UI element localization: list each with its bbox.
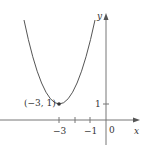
y-tick-label-1: 1 <box>95 99 101 109</box>
parabola-curve <box>24 20 95 104</box>
vertex-point <box>57 102 61 106</box>
vertex-label: (−3, 1) <box>24 98 56 108</box>
x-tick-label-neg1: −1 <box>84 126 97 136</box>
y-axis-arrow-icon <box>104 13 109 20</box>
x-axis-label: x <box>134 126 139 136</box>
x-tick-label-neg3: −3 <box>53 126 67 136</box>
origin-label: 0 <box>109 125 115 135</box>
x-axis-arrow-icon <box>133 118 140 123</box>
parabola-chart: (−3, 1) 1 −3 −1 0 x y <box>0 0 143 148</box>
y-axis-label: y <box>96 11 103 21</box>
